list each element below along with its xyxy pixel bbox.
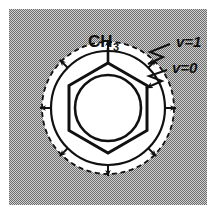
methyl-label-text: CH (88, 32, 113, 51)
methyl-label-subscript: 3 (113, 41, 119, 53)
label-v1: v=1 (176, 33, 201, 50)
aromatic-circle (75, 75, 141, 141)
toluene-shell-figure: CH 3 v=1 v=0 (0, 0, 216, 219)
figure-container: CH 3 v=1 v=0 (0, 0, 216, 219)
label-v0: v=0 (172, 59, 198, 76)
